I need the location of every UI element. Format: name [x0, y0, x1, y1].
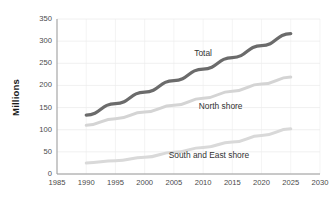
y-tick-label: 350	[28, 14, 52, 23]
y-tick-label: 50	[28, 147, 52, 156]
series-annotation-north-shore: North shore	[199, 101, 243, 111]
y-tick-label: 250	[28, 58, 52, 67]
series-annotation-total: Total	[194, 48, 212, 58]
y-tick-label: 300	[28, 36, 52, 45]
y-tick-label: 0	[28, 169, 52, 178]
y-tick-label: 100	[28, 125, 52, 134]
line-chart: Millions 350300250200150100500 198519901…	[0, 0, 330, 208]
y-tick-label: 200	[28, 80, 52, 89]
y-tick-label: 150	[28, 103, 52, 112]
x-tick-label: 2030	[303, 178, 330, 187]
series-line-north-shore	[86, 77, 291, 125]
series-annotation-south-and-east-shore: South and East shore	[169, 150, 250, 160]
series-lines	[86, 34, 291, 163]
